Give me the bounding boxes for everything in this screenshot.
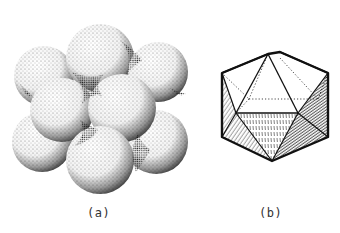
panel-label-a: (a) (87, 206, 110, 220)
panel-label-b: (b) (259, 206, 282, 220)
icosahedron-drawing (0, 0, 340, 233)
figure: (a) (b) (0, 0, 340, 233)
